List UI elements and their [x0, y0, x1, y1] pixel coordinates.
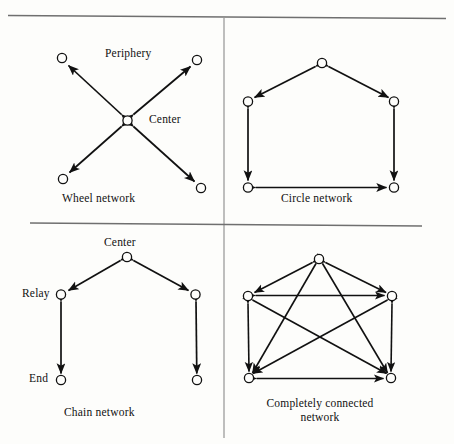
edge-center-bottomright: [134, 127, 195, 182]
edge-center-topright: [134, 67, 191, 115]
edge-top-left: [255, 263, 313, 293]
node-periphery-top-left: [57, 53, 66, 62]
circle-nodes: [243, 58, 398, 192]
node-cc-left: [243, 291, 252, 300]
completely-connected-network-diagram: [243, 254, 396, 382]
node-cc-top: [314, 254, 323, 263]
cc-caption-line-2: network: [300, 411, 339, 423]
wheel-periphery-label: Periphery: [105, 47, 152, 59]
edge-top-to-right: [329, 67, 389, 98]
node-periphery-top-right: [192, 55, 201, 64]
edge-center-to-right: [134, 261, 189, 291]
node-periphery-bottom-left: [58, 174, 67, 183]
node-chain-end-right: [192, 375, 201, 384]
node-cc-bottom-right: [386, 373, 395, 382]
node-circle-top: [317, 58, 326, 67]
cc-caption-line-1: Completely connected: [266, 397, 373, 409]
node-periphery-bottom-right: [196, 183, 205, 192]
chain-network-caption: Chain network: [64, 406, 135, 418]
rules-group: [8, 16, 446, 439]
wheel-network-diagram: [57, 53, 205, 192]
node-circle-left: [243, 97, 252, 106]
node-circle-right: [389, 97, 398, 106]
completely-connected-network-caption: Completely connected network: [250, 396, 390, 424]
horizontal-rule-top: [8, 16, 446, 19]
chain-end-label: End: [29, 372, 48, 384]
wheel-network-caption: Wheel network: [62, 192, 135, 204]
circle-network-caption: Circle network: [281, 192, 352, 204]
chain-center-label: Center: [104, 236, 136, 248]
network-diagram-figure: Periphery Center Wheel network Circle ne…: [0, 0, 454, 444]
node-chain-end: [56, 375, 65, 384]
circle-network-diagram: [243, 58, 398, 192]
horizontal-rule-middle: [30, 223, 422, 226]
wheel-center-label: Center: [149, 113, 181, 125]
edge-center-bottomleft: [70, 127, 122, 173]
circle-edges: [248, 67, 394, 188]
edge-top-right: [326, 263, 387, 293]
node-chain-relay: [56, 290, 65, 299]
completely-connected-edges: [248, 263, 392, 379]
node-chain-center: [122, 252, 131, 261]
edge-right-to-rightbottom: [196, 302, 197, 374]
node-chain-relay-right: [191, 290, 200, 299]
edge-center-to-relay: [69, 261, 121, 291]
node-circle-bottom-left: [243, 183, 252, 192]
edge-left-bottomleft: [248, 304, 249, 372]
node-cc-bottom-left: [244, 373, 253, 382]
edge-top-to-left: [255, 67, 316, 98]
edge-right-bottomright: [391, 304, 392, 372]
diagram-canvas: [0, 0, 454, 444]
node-circle-bottom-right: [389, 183, 398, 192]
edge-center-topleft: [69, 66, 122, 115]
chain-nodes: [56, 252, 201, 384]
completely-connected-nodes: [243, 254, 396, 382]
chain-relay-label: Relay: [22, 287, 50, 299]
chain-network-diagram: [56, 252, 201, 384]
chain-edges: [61, 261, 197, 374]
node-center: [123, 116, 132, 125]
node-cc-right: [387, 291, 396, 300]
